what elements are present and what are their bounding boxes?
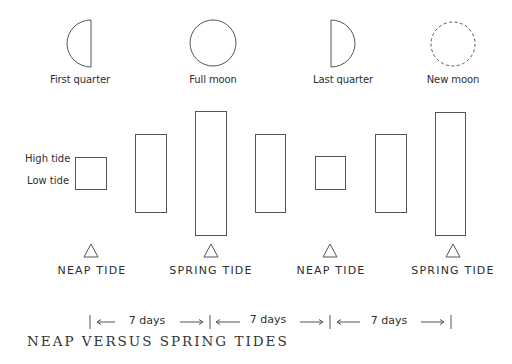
right-arrow-icon xyxy=(421,320,444,325)
neap-tide-marker-icon xyxy=(323,244,337,257)
tidal-range-bar-neap xyxy=(76,158,107,190)
left-arrow-icon xyxy=(97,320,115,325)
tidal-range-bar-spring xyxy=(196,112,227,236)
tidal-range-bar-intermediate xyxy=(256,135,286,213)
right-arrow-icon xyxy=(180,320,203,325)
spring-tide-marker-icon xyxy=(446,244,460,257)
neap-tide-marker-icon xyxy=(84,244,98,257)
left-arrow-icon xyxy=(216,320,240,325)
moon-phase-label-first-quarter: First quarter xyxy=(50,74,110,85)
tide-label-neap: NEAP TIDE xyxy=(296,264,365,277)
left-arrow-icon xyxy=(337,320,360,325)
tide-label-spring: SPRING TIDE xyxy=(169,264,252,277)
high-tide-label: High tide xyxy=(25,153,70,164)
tide-label-neap: NEAP TIDE xyxy=(57,264,126,277)
first-quarter-moon-icon xyxy=(67,20,91,67)
figure-title: NEAP VERSUS SPRING TIDES xyxy=(27,333,289,349)
interval-label: 7 days xyxy=(371,314,407,327)
tidal-range-bar-spring xyxy=(436,113,466,236)
moon-phase-label-full-moon: Full moon xyxy=(189,74,237,85)
tidal-range-bar-intermediate xyxy=(376,135,407,213)
tidal-range-bar-intermediate xyxy=(136,135,167,213)
interval-label: 7 days xyxy=(250,313,286,326)
interval-label: 7 days xyxy=(129,314,165,327)
new-moon-icon xyxy=(431,22,475,66)
right-arrow-icon xyxy=(300,320,323,325)
tidal-range-bar-neap xyxy=(316,157,346,190)
tides-diagram xyxy=(0,0,512,364)
full-moon-icon xyxy=(190,20,236,66)
tide-label-spring: SPRING TIDE xyxy=(411,264,494,277)
moon-phase-label-last-quarter: Last quarter xyxy=(313,74,373,85)
moon-phase-label-new-moon: New moon xyxy=(427,74,480,85)
low-tide-label: Low tide xyxy=(27,175,69,186)
spring-tide-marker-icon xyxy=(204,244,218,257)
last-quarter-moon-icon xyxy=(331,20,355,67)
